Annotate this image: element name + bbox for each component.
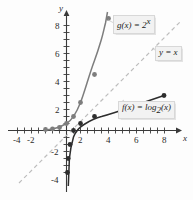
callout-f-logarithm: f(x) = log2(x) — [118, 101, 175, 119]
logarithm-exponential-graph-figure: -4 -2 2 4 6 8 8 6 4 2 -2 -4 y x g(x) = 2… — [0, 0, 193, 200]
y-axis-arrowhead — [64, 10, 70, 16]
data-point — [71, 114, 76, 119]
data-point — [68, 142, 73, 147]
data-point — [78, 100, 83, 105]
callout-g-text: g(x) = 2 — [117, 20, 147, 30]
callout-f-prefix: f(x) = log — [122, 102, 157, 112]
data-point — [162, 93, 167, 98]
y-tick-label-8: 8 — [55, 22, 60, 31]
x-tick-label--4: -4 — [13, 136, 21, 145]
data-point — [66, 156, 71, 161]
y-tick-label--2: -2 — [51, 148, 59, 157]
data-point — [50, 126, 55, 131]
y-tick-label-2: 2 — [55, 106, 60, 115]
data-point — [57, 125, 62, 130]
y-tick-label-4: 4 — [55, 78, 60, 87]
x-tick-label-4: 4 — [106, 136, 111, 145]
x-tick-label-8: 8 — [162, 136, 167, 145]
x-tick-label-2: 2 — [78, 136, 83, 145]
markers-g-exponential — [43, 16, 111, 132]
data-point — [65, 170, 70, 175]
x-tick-label--2: -2 — [27, 136, 35, 145]
x-axis-label: x — [183, 134, 187, 143]
plot-canvas — [0, 0, 193, 200]
callout-g-exponent: x — [147, 16, 151, 26]
data-point — [92, 114, 97, 119]
callout-g-exponential: g(x) = 2x — [113, 15, 155, 34]
data-point — [64, 121, 69, 126]
data-point — [71, 128, 76, 133]
data-point — [78, 121, 83, 126]
callout-identity-line: y = x — [155, 46, 182, 61]
data-point — [92, 72, 97, 77]
data-point — [43, 127, 48, 132]
y-tick-label-6: 6 — [55, 50, 60, 59]
y-tick-label--4: -4 — [51, 176, 59, 185]
x-axis-arrowhead — [176, 128, 182, 134]
x-tick-label-6: 6 — [134, 136, 139, 145]
callout-identity-text: y = x — [159, 47, 178, 57]
y-axis-label: y — [59, 4, 63, 13]
callout-f-suffix: (x) — [161, 102, 171, 112]
